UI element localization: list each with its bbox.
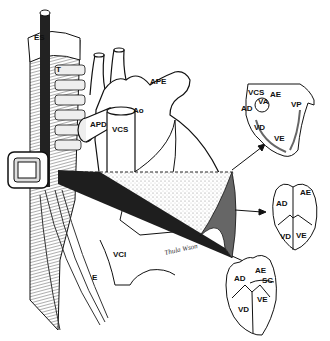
inset2-ad: AD bbox=[276, 199, 288, 208]
inset3-ad: AD bbox=[234, 274, 246, 283]
label-es: ES bbox=[34, 33, 45, 42]
label-vcs: VCS bbox=[112, 125, 129, 134]
inset1-ve: VE bbox=[274, 134, 285, 143]
inset-heart-3 bbox=[226, 255, 276, 335]
label-ao: Ao bbox=[133, 106, 144, 115]
inset3-ae: AE bbox=[255, 266, 267, 275]
inset2-vd: VD bbox=[280, 232, 291, 241]
inset1-vd: VD bbox=[254, 123, 265, 132]
inset1-ad: AD bbox=[241, 104, 253, 113]
inset2-ve: VE bbox=[296, 231, 307, 240]
inset1-vcs: VCS bbox=[248, 88, 265, 97]
heart-diagram: ES T APE Ao APD VCS VCI E Thula Wson VCS… bbox=[0, 0, 330, 341]
arrows bbox=[232, 144, 266, 268]
label-t: T bbox=[56, 65, 61, 74]
inset3-ve: VE bbox=[257, 295, 268, 304]
label-vci: VCI bbox=[113, 250, 126, 259]
inset3-vd: VD bbox=[238, 305, 249, 314]
inset1-va: VA bbox=[258, 97, 269, 106]
artist-signature: Thula Wson bbox=[164, 242, 199, 257]
label-ape: APE bbox=[150, 77, 167, 86]
inset2-ae: AE bbox=[300, 188, 312, 197]
inset1-vp: VP bbox=[291, 100, 302, 109]
vci-vessel bbox=[100, 240, 175, 285]
label-e: E bbox=[92, 273, 98, 282]
label-apd: APD bbox=[90, 120, 107, 129]
inset3-sc: SC bbox=[262, 276, 273, 285]
inset1-ae: AE bbox=[270, 90, 282, 99]
